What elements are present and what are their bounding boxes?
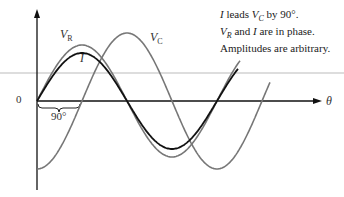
annotation-note: I leads VC by 90°. VR and I are in phase… <box>220 8 330 55</box>
origin-label: 0 <box>16 93 22 105</box>
y-axis-arrow-icon <box>34 9 40 18</box>
note-line-3: Amplitudes are arbitrary. <box>220 42 330 55</box>
phase-label: 90° <box>51 110 66 122</box>
note-line-1: I leads VC by 90°. <box>220 8 330 25</box>
theta-axis-arrow-icon <box>313 98 322 104</box>
current-label: I <box>80 51 84 66</box>
theta-label: θ <box>326 94 332 109</box>
vc-label: VC <box>150 30 163 46</box>
note-line-2: VR and I are in phase. <box>220 25 330 42</box>
phase-diagram: VR VC I 0 θ 90° I leads VC by 90°. VR an… <box>0 0 344 197</box>
vr-label: VR <box>60 27 73 43</box>
